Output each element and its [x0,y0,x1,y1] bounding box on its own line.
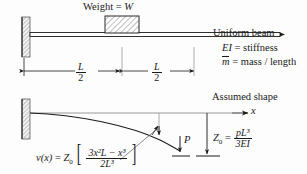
wall-support-bottom [22,99,30,139]
bracket-close: ] [132,140,137,165]
deflection-equation: v(x) = Z0 [ 3x²L − x³ 2L³ ] [36,140,138,169]
uniform-beam-label: Uniform beam [213,28,275,39]
mass-per-length-label: m = mass / length [222,57,296,68]
x-axis-label: x [251,106,256,117]
wall-support-top [22,17,30,57]
assumed-shape-label: Assumed shape [212,92,278,103]
equation-denominator: 2L³ [86,159,127,169]
stiffness-label: EI = stiffness [222,43,278,54]
load-label-P: P [184,135,190,146]
beam-deflection-figure: Weight = W Uniform beam EI = stiffness m… [0,0,307,174]
leader-arrow-up [152,126,158,135]
dimension-right-half-length: L2 [152,62,162,83]
bracket-open: [ [77,140,82,165]
z0-denominator: 3EI [234,139,252,149]
z0-formula: Z0 = pL³ 3EI [213,128,252,149]
beam-right-tip [280,33,285,37]
weight-label: Weight = W [83,2,133,13]
weight-block [105,16,139,33]
dimension-left-half-length: L2 [76,62,86,83]
